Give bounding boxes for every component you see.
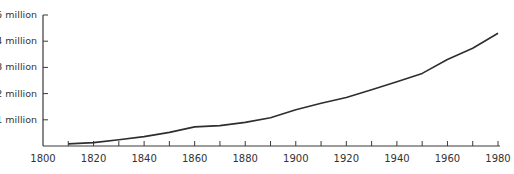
x-tick-label: 1840 — [131, 153, 156, 164]
y-tick-label: 1 million — [0, 114, 37, 125]
x-tick-label: 1940 — [384, 153, 409, 164]
x-tick-label: 1900 — [283, 153, 308, 164]
x-tick-label: 1820 — [81, 153, 106, 164]
y-axis: 1 million2 million3 million4 million5 mi… — [0, 9, 48, 146]
y-tick-label: 5 million — [0, 9, 37, 20]
y-tick-label: 2 million — [0, 88, 37, 99]
population-line-chart: 1 million2 million3 million4 million5 mi… — [0, 0, 514, 174]
x-tick-label: 1960 — [435, 153, 460, 164]
y-tick-label: 4 million — [0, 35, 37, 46]
population-line — [68, 33, 498, 144]
x-tick-label: 1880 — [232, 153, 257, 164]
y-tick-label: 3 million — [0, 61, 37, 72]
x-tick-label: 1980 — [485, 153, 510, 164]
x-tick-label: 1800 — [30, 153, 55, 164]
x-axis: 1800182018401860188019001920194019601980 — [30, 141, 510, 164]
x-tick-label: 1920 — [334, 153, 359, 164]
x-tick-label: 1860 — [182, 153, 207, 164]
